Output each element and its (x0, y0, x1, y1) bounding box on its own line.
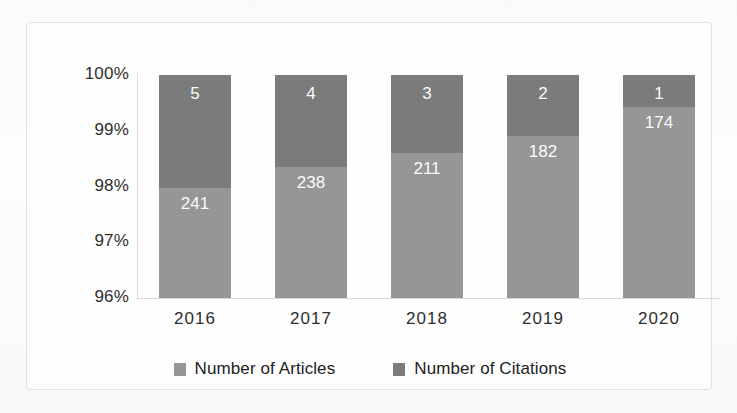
chart-page: 100%99%98%97%96% 52414238321121821174 Nu… (0, 0, 737, 413)
legend-item-articles[interactable]: Number of Articles (174, 359, 336, 379)
bar-column-2020[interactable]: 1174 (623, 75, 695, 298)
y-axis-tick-label: 99% (49, 120, 129, 140)
data-label-citations: 4 (306, 75, 315, 102)
x-axis-tick-label: 2017 (256, 309, 366, 329)
legend-label: Number of Articles (195, 359, 336, 379)
bar-segment-articles[interactable]: 241 (159, 188, 231, 298)
y-axis-tick-label: 98% (49, 176, 129, 196)
x-axis-tick-label: 2016 (140, 309, 250, 329)
bar-segment-citations[interactable]: 3 (391, 75, 463, 153)
bar-segment-citations[interactable]: 1 (623, 75, 695, 107)
data-label-citations: 5 (190, 75, 199, 102)
data-label-articles: 211 (413, 153, 440, 177)
y-axis-tick-label: 96% (49, 287, 129, 307)
bar-column-2019[interactable]: 2182 (507, 75, 579, 298)
bar-segment-citations[interactable]: 5 (159, 75, 231, 188)
bar-column-2016[interactable]: 5241 (159, 75, 231, 298)
plot-area: 52414238321121821174 (137, 75, 717, 298)
data-label-citations: 2 (538, 75, 547, 102)
y-axis-tick-label: 100% (49, 64, 129, 84)
bar-column-2017[interactable]: 4238 (275, 75, 347, 298)
y-axis-tick-label: 97% (49, 231, 129, 251)
data-label-articles: 174 (645, 107, 673, 131)
x-axis-tick-label: 2020 (604, 309, 714, 329)
bar-segment-citations[interactable]: 4 (275, 75, 347, 167)
data-label-citations: 3 (422, 75, 431, 102)
data-label-articles: 241 (181, 188, 209, 212)
x-axis-line (137, 298, 719, 299)
y-axis-labels: 100%99%98%97%96% (41, 23, 129, 413)
bar-segment-articles[interactable]: 182 (507, 136, 579, 298)
legend-item-citations[interactable]: Number of Citations (393, 359, 566, 379)
bar-segment-articles[interactable]: 238 (275, 167, 347, 298)
data-label-articles: 182 (529, 136, 557, 160)
legend-swatch-icon (174, 363, 186, 376)
bar-segment-articles[interactable]: 174 (623, 107, 695, 298)
chart-frame: 100%99%98%97%96% 52414238321121821174 Nu… (26, 22, 712, 390)
bar-column-2018[interactable]: 3211 (391, 75, 463, 298)
data-label-articles: 238 (297, 167, 325, 191)
bar-segment-articles[interactable]: 211 (391, 153, 463, 298)
chart-legend: Number of ArticlesNumber of Citations (27, 359, 713, 379)
x-axis-tick-label: 2018 (372, 309, 482, 329)
legend-label: Number of Citations (414, 359, 566, 379)
x-axis-tick-label: 2019 (488, 309, 598, 329)
bar-segment-citations[interactable]: 2 (507, 75, 579, 136)
legend-swatch-icon (393, 363, 405, 376)
data-label-citations: 1 (654, 75, 663, 102)
